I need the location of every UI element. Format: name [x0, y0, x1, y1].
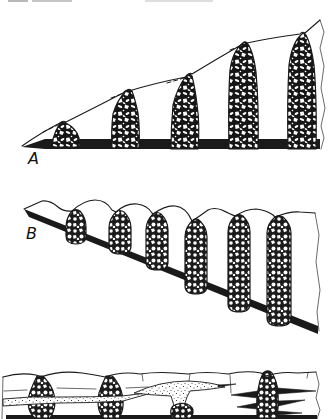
crack-4 — [307, 373, 308, 378]
column-b-6 — [267, 216, 291, 327]
column-a-3 — [171, 74, 199, 149]
crack-1 — [142, 374, 143, 381]
fissure-c-3 — [257, 371, 279, 418]
column-b-5 — [228, 215, 250, 313]
panel-a-label: A — [27, 149, 39, 168]
panel-c — [2, 371, 320, 419]
crack-3 — [230, 375, 231, 393]
panel-b: B — [24, 200, 320, 334]
bedding-line-3 — [126, 387, 148, 388]
column-b-2 — [109, 211, 131, 255]
sill-wing-upper-right — [277, 388, 316, 394]
column-b-1 — [66, 210, 86, 245]
torn-right-edge-a — [320, 20, 325, 149]
figure-canvas: A B — [0, 0, 330, 419]
column-a-5 — [288, 33, 317, 149]
geological-figure: A B — [0, 0, 330, 419]
sill-fragment — [218, 384, 236, 387]
column-b-4 — [185, 219, 207, 294]
crack-2 — [189, 374, 190, 381]
sill-wing-upper-left — [231, 391, 258, 398]
bedding-line-1 — [4, 390, 27, 391]
feeder-blob — [171, 403, 193, 418]
sill-lens-left — [3, 392, 155, 406]
sill-wing-lower-left — [237, 403, 257, 409]
panel-a: A — [22, 20, 325, 168]
bedding-line-2 — [57, 388, 96, 389]
torn-right-edge-c — [316, 372, 320, 419]
column-b-3 — [146, 213, 168, 271]
panel-b-label: B — [26, 224, 37, 243]
sill-wing-lower-right — [278, 400, 305, 406]
torn-right-edge-b — [315, 213, 320, 331]
column-a-2 — [112, 90, 140, 149]
left-edge-c — [2, 377, 3, 419]
sill-wing-lowest-right — [277, 411, 302, 415]
top-crop-artifact — [8, 0, 213, 2]
column-a-4 — [229, 42, 259, 149]
